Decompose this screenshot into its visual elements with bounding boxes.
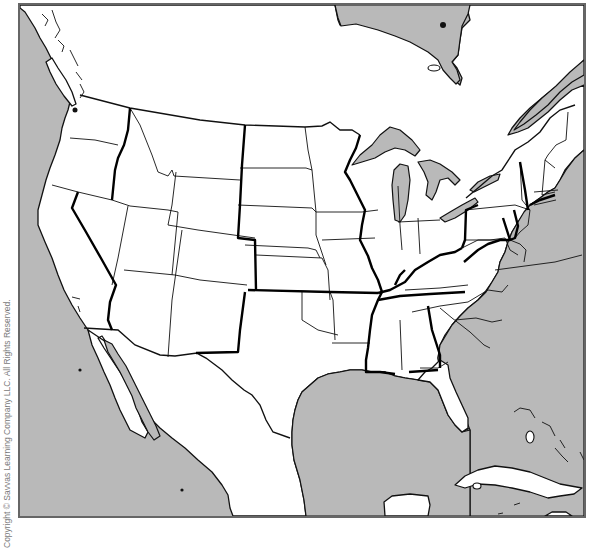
- guadalupe-island: [78, 368, 81, 371]
- islas-marias: [180, 488, 183, 491]
- us-outline-map: [20, 5, 584, 516]
- puget-sound: [73, 108, 78, 113]
- map-frame: [18, 3, 586, 518]
- isle-of-youth: [473, 483, 481, 489]
- island: [440, 22, 446, 28]
- bahamas-island: [526, 431, 534, 443]
- island: [428, 65, 440, 71]
- copyright-notice: Copyright © Savvas Learning Company LLC.…: [2, 299, 12, 548]
- yucatan-peninsula: [384, 494, 430, 516]
